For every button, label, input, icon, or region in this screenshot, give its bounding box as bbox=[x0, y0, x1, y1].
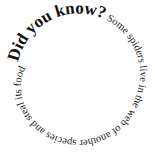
headline-text: Did you know? bbox=[3, 0, 108, 63]
spiral-text-graphic: Did you know? Some spiders live in the w… bbox=[0, 0, 155, 158]
spiral-text: Did you know? Some spiders live in the w… bbox=[3, 0, 149, 149]
spiral-svg: Did you know? Some spiders live in the w… bbox=[0, 0, 155, 158]
